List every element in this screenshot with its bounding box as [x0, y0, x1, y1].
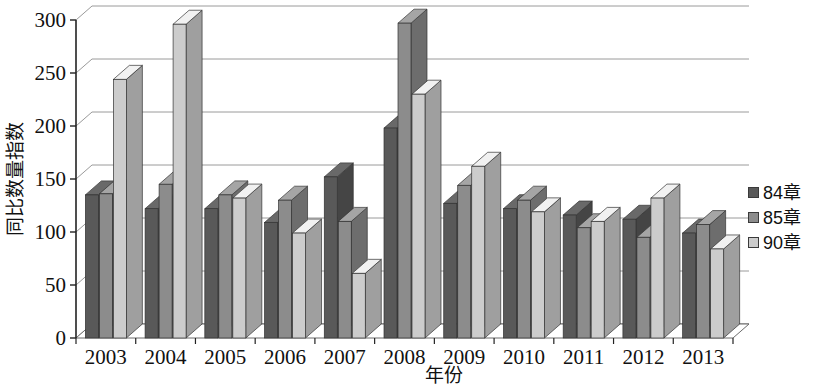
x-tick-label: 2005: [204, 345, 246, 369]
legend-item-90: 90章: [748, 230, 834, 255]
bar-side-face: [306, 219, 322, 338]
bar[interactable]: [384, 128, 397, 338]
x-tick-label: 2008: [384, 345, 426, 369]
x-tick-label: 2012: [622, 345, 664, 369]
grid-depth-line: [76, 112, 92, 126]
y-tick-label: 50: [45, 273, 66, 297]
legend-item-85: 85章: [748, 205, 834, 230]
bar[interactable]: [472, 166, 485, 338]
bar[interactable]: [503, 209, 516, 338]
bar[interactable]: [458, 185, 471, 338]
bar[interactable]: [145, 209, 158, 338]
bar[interactable]: [113, 79, 126, 338]
y-tick-label: 100: [35, 220, 67, 244]
legend-item-84: 84章: [748, 180, 834, 205]
bar[interactable]: [412, 94, 425, 338]
grid-depth-line: [76, 165, 92, 179]
grid-depth-line: [76, 59, 92, 73]
bar-side-face: [544, 198, 560, 338]
legend-swatch-84-icon: [748, 187, 759, 198]
bar-side-face: [186, 10, 202, 338]
bar[interactable]: [623, 219, 636, 338]
bar[interactable]: [159, 184, 172, 338]
bar[interactable]: [563, 215, 576, 338]
bar[interactable]: [279, 200, 292, 338]
chart-canvas: 0501001502002503002003200420052006200720…: [0, 0, 840, 390]
bar-side-face: [246, 184, 262, 338]
legend-swatch-85-icon: [748, 212, 759, 223]
legend-label-84: 84章: [763, 184, 801, 202]
bar[interactable]: [637, 237, 650, 338]
bar[interactable]: [577, 228, 590, 338]
bar[interactable]: [711, 249, 724, 338]
bar-side-face: [126, 65, 142, 338]
y-tick-label: 0: [56, 326, 67, 350]
y-tick-label: 250: [35, 61, 67, 85]
legend-label-90: 90章: [763, 234, 801, 252]
bar-side-face: [664, 184, 680, 338]
x-tick-label: 2003: [85, 345, 127, 369]
bar[interactable]: [352, 273, 365, 338]
bar[interactable]: [517, 200, 530, 338]
bar[interactable]: [173, 24, 186, 338]
bar[interactable]: [205, 209, 218, 338]
y-tick-label: 150: [35, 167, 67, 191]
y-axis-title: 同比数量指数: [5, 122, 26, 236]
bar[interactable]: [398, 23, 411, 338]
bar[interactable]: [85, 195, 98, 338]
x-axis-title: 年份: [425, 365, 463, 386]
bar[interactable]: [338, 221, 351, 338]
bar[interactable]: [444, 203, 457, 338]
bar-side-face: [485, 152, 501, 338]
bar-side-face: [604, 207, 620, 338]
x-tick-label: 2004: [145, 345, 188, 369]
bar[interactable]: [99, 194, 112, 338]
legend-swatch-90-icon: [748, 237, 759, 248]
bar[interactable]: [324, 177, 337, 338]
bar[interactable]: [651, 198, 664, 338]
x-tick-label: 2007: [324, 345, 366, 369]
bar-side-face: [425, 80, 441, 338]
x-tick-label: 2010: [503, 345, 545, 369]
x-tick-label: 2006: [264, 345, 306, 369]
x-tick-label: 2011: [563, 345, 604, 369]
bar[interactable]: [531, 212, 544, 338]
y-tick-label: 200: [35, 114, 67, 138]
bar-chart: 0501001502002503002003200420052006200720…: [0, 0, 840, 390]
bar[interactable]: [293, 233, 306, 338]
bar[interactable]: [697, 225, 710, 338]
legend-label-85: 85章: [763, 209, 801, 227]
bar[interactable]: [233, 198, 246, 338]
bar[interactable]: [591, 221, 604, 338]
bar[interactable]: [265, 222, 278, 338]
x-tick-label: 2013: [682, 345, 724, 369]
y-tick-label: 300: [35, 8, 67, 32]
bar[interactable]: [683, 233, 696, 338]
chart-legend: 84章 85章 90章: [748, 180, 834, 255]
bar[interactable]: [219, 195, 232, 338]
bar-side-face: [724, 235, 740, 338]
